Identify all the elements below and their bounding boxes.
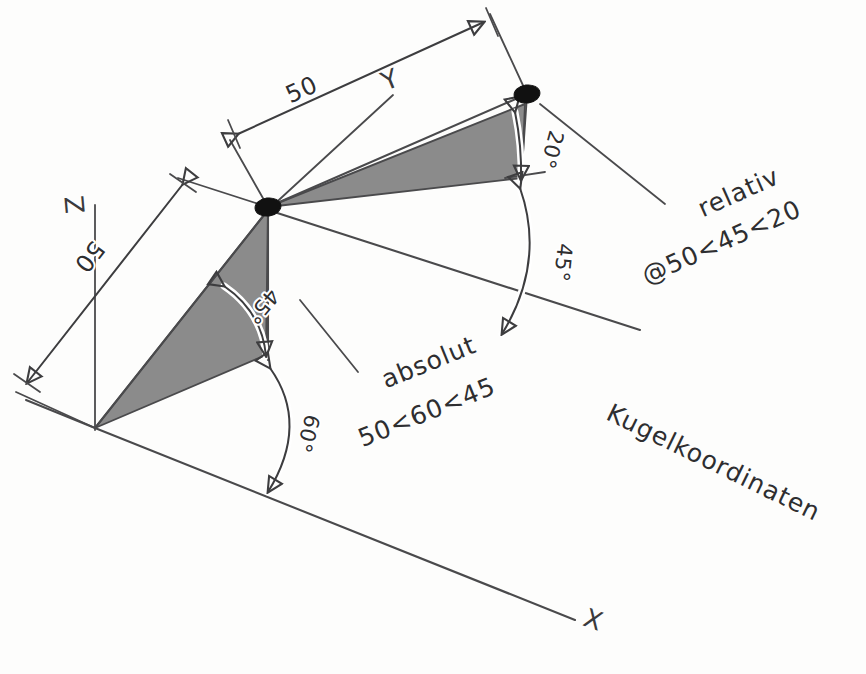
left-dim-extension-bottom [16, 392, 95, 428]
angle-20-label: 20° [535, 128, 568, 172]
origin-node [254, 196, 282, 217]
left-dim-tick-bottom [14, 374, 40, 392]
upper-dimension-label: 50 [281, 70, 322, 109]
upper-dim-extension-right [490, 14, 527, 94]
upper-dim-tick-right [486, 8, 498, 36]
absolut-label-line2: 50<60<45 [354, 371, 500, 452]
spherical-coordinates-diagram: Z Y X 50 50 20° 45° 45° 60° absolut 50<6… [0, 0, 866, 674]
projection-ray-upper [268, 210, 640, 330]
technical-drawing-canvas: Z Y X 50 50 20° 45° 45° 60° absolut 50<6… [0, 0, 866, 674]
angle-60-label: 60° [291, 412, 324, 456]
angle-45-upper-label: 45° [549, 242, 577, 283]
x-axis-label: X [580, 602, 607, 636]
z-axis-label: Z [59, 195, 90, 215]
absolut-leader-line [300, 300, 358, 372]
endpoint-node [513, 83, 541, 104]
upper-shaded-triangle [268, 104, 525, 207]
y-axis-label: Y [376, 63, 403, 97]
left-dimension-label: 50 [68, 235, 110, 278]
upper-dim-line [238, 22, 484, 134]
caption-label: Kugelkoordinaten [602, 398, 825, 527]
x-axis-line [95, 428, 575, 620]
